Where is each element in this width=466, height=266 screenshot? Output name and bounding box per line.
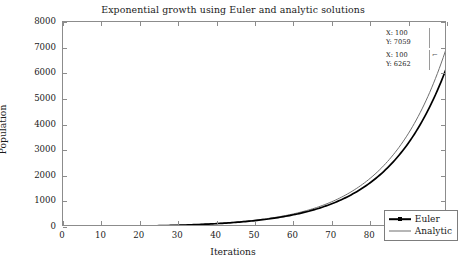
y-tick-2000	[441, 176, 445, 177]
legend-item-analytic[interactable]: Analytic	[389, 225, 452, 237]
y-tick-label-7000: 7000	[18, 42, 56, 52]
x-tick-80	[370, 22, 371, 26]
x-tick-10	[101, 221, 102, 225]
series-line-euler	[63, 67, 445, 225]
legend-swatch-euler-icon	[389, 213, 411, 225]
datatip-analytic-leader	[429, 28, 430, 48]
chart-title: Exponential growth using Euler and analy…	[0, 4, 466, 15]
y-tick-5000	[441, 99, 445, 100]
y-tick-4000	[441, 125, 445, 126]
y-tick-label-1000: 1000	[18, 195, 56, 205]
x-tick-label-50: 50	[249, 230, 260, 240]
x-tick-20	[140, 221, 141, 225]
datatip-anchor-marker: ⌐	[432, 52, 438, 59]
y-tick-label-0: 0	[18, 221, 56, 231]
y-tick-2000	[63, 176, 67, 177]
legend-swatch-analytic-icon	[389, 225, 411, 237]
y-tick-0	[63, 227, 67, 228]
chart-legend[interactable]: Euler Analytic	[384, 210, 458, 241]
x-tick-30	[178, 221, 179, 225]
x-tick-10	[101, 22, 102, 26]
datatip-analytic-y: Y: 7059	[386, 38, 411, 47]
y-tick-6000	[63, 73, 67, 74]
x-tick-label-20: 20	[133, 230, 144, 240]
x-tick-label-30: 30	[172, 230, 183, 240]
y-tick-label-3000: 3000	[18, 144, 56, 154]
datatip-euler-x: X: 100	[386, 51, 411, 60]
x-axis-label: Iterations	[0, 246, 466, 257]
x-tick-label-0: 0	[59, 230, 64, 240]
datatip-analytic-x: X: 100	[386, 29, 411, 38]
y-tick-3000	[63, 150, 67, 151]
y-tick-6000	[441, 73, 445, 74]
legend-label-euler: Euler	[415, 214, 440, 224]
x-tick-20	[140, 22, 141, 26]
x-tick-label-40: 40	[210, 230, 221, 240]
x-tick-40	[217, 22, 218, 26]
x-tick-0	[63, 221, 64, 225]
x-tick-50	[255, 22, 256, 26]
y-tick-8000	[63, 22, 67, 23]
y-tick-3000	[441, 150, 445, 151]
x-tick-70	[332, 221, 333, 225]
x-tick-label-10: 10	[95, 230, 106, 240]
y-tick-label-8000: 8000	[18, 16, 56, 26]
figure-canvas: Exponential growth using Euler and analy…	[0, 0, 466, 266]
y-tick-label-5000: 5000	[18, 93, 56, 103]
y-tick-4000	[63, 125, 67, 126]
y-tick-5000	[63, 99, 67, 100]
datatip-analytic[interactable]: X: 100 Y: 7059	[386, 29, 411, 47]
y-axis-label: Population	[0, 105, 8, 155]
y-tick-1000	[63, 201, 67, 202]
x-tick-90	[409, 22, 410, 26]
legend-label-analytic: Analytic	[415, 226, 452, 236]
x-tick-100	[447, 22, 448, 26]
y-tick-1000	[441, 201, 445, 202]
x-tick-60	[293, 22, 294, 26]
x-tick-40	[217, 221, 218, 225]
datatip-euler-leader	[429, 50, 430, 70]
y-tick-7000	[441, 48, 445, 49]
x-tick-80	[370, 221, 371, 225]
datatip-euler-y: Y: 6262	[386, 60, 411, 69]
y-tick-label-2000: 2000	[18, 170, 56, 180]
x-tick-label-70: 70	[325, 230, 336, 240]
y-tick-label-4000: 4000	[18, 119, 56, 129]
y-tick-8000	[441, 22, 445, 23]
y-tick-label-6000: 6000	[18, 67, 56, 77]
x-tick-60	[293, 221, 294, 225]
series-line-analytic	[63, 46, 445, 225]
x-tick-label-60: 60	[287, 230, 298, 240]
x-tick-50	[255, 221, 256, 225]
datatip-euler[interactable]: X: 100 Y: 6262	[386, 51, 411, 69]
legend-item-euler[interactable]: Euler	[389, 213, 452, 225]
x-tick-label-80: 80	[364, 230, 375, 240]
x-tick-30	[178, 22, 179, 26]
y-tick-7000	[63, 48, 67, 49]
x-tick-70	[332, 22, 333, 26]
